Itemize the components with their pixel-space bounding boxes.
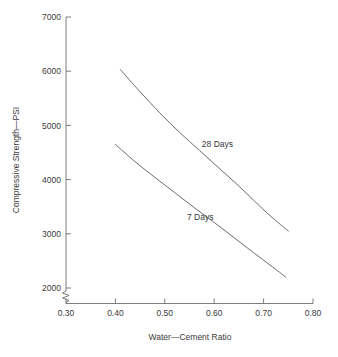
y-axis-tick-labels: 7000 6000 5000 4000 3000 2000 [42, 12, 61, 293]
series-annotations: 28 Days 7 Days [187, 139, 233, 222]
y-tick-label-4000: 4000 [42, 175, 61, 185]
y-tick-label-3000: 3000 [42, 229, 61, 239]
x-tick-label-070: 0.70 [255, 308, 272, 318]
x-tick-label-050: 0.50 [157, 308, 174, 318]
axes-group [66, 17, 313, 304]
y-tick-label-6000: 6000 [42, 66, 61, 76]
x-tick-label-040: 0.40 [107, 308, 124, 318]
y-axis-ticks [66, 17, 71, 288]
x-tick-label-060: 0.60 [206, 308, 223, 318]
x-axis-title: Water—Cement Ratio [149, 332, 232, 342]
series-line-28-days [120, 70, 288, 232]
series-label-7-days: 7 Days [187, 212, 213, 222]
x-axis-ticks [66, 299, 313, 304]
series-label-28-days: 28 Days [202, 139, 233, 149]
y-tick-label-7000: 7000 [42, 12, 61, 22]
data-series-group [115, 70, 288, 278]
series-line-7-days [115, 144, 285, 277]
chart-canvas: 7000 6000 5000 4000 3000 2000 0.30 0.40 … [0, 0, 338, 357]
x-tick-label-030: 0.30 [58, 308, 75, 318]
x-axis-tick-labels: 0.30 0.40 0.50 0.60 0.70 0.80 [58, 308, 322, 318]
x-tick-label-080: 0.80 [305, 308, 322, 318]
chart-figure: 7000 6000 5000 4000 3000 2000 0.30 0.40 … [0, 0, 338, 357]
y-tick-label-5000: 5000 [42, 121, 61, 131]
y-axis-title: Compressive Strength—PSI [11, 107, 21, 213]
y-tick-label-2000: 2000 [42, 283, 61, 293]
